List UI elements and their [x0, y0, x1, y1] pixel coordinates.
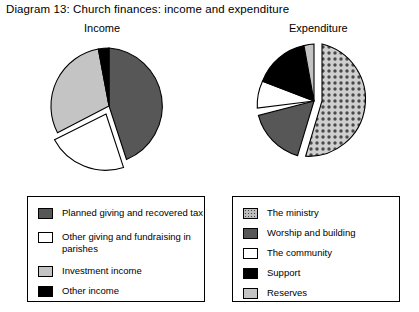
legend-swatch-dark-grey-icon — [38, 208, 53, 219]
diagram-title: Diagram 13: Church finances: income and … — [6, 3, 289, 15]
legend-swatch-dotted-icon — [243, 208, 258, 219]
expenditure-legend-item-the-community: The community — [243, 247, 332, 259]
legend-swatch-white-icon — [38, 232, 53, 243]
expenditure-legend-item-worship-and-building: Worship and building — [243, 227, 356, 239]
expenditure-chart-title: Expenditure — [289, 22, 348, 34]
expenditure-legend-label-1: Worship and building — [267, 227, 356, 239]
expenditure-legend-label-0: The ministry — [267, 207, 319, 219]
income-legend-item-investment-income: Investment income — [38, 265, 142, 277]
expenditure-slice-the-ministry — [306, 44, 366, 156]
expenditure-legend-label-3: Support — [267, 267, 300, 279]
expenditure-pie-chart — [236, 38, 391, 173]
expenditure-slice-worship-and-building — [258, 101, 314, 156]
income-slice-planned-giving — [109, 48, 162, 159]
expenditure-legend-label-4: Reserves — [267, 287, 307, 299]
expenditure-legend-item-reserves: Reserves — [243, 287, 307, 299]
expenditure-legend-item-the-ministry: The ministry — [243, 207, 319, 219]
income-pie-svg — [34, 38, 184, 173]
legend-swatch-dark-grey-icon — [243, 228, 258, 239]
income-chart-title: Income — [84, 22, 120, 34]
income-pie-chart — [34, 38, 184, 173]
diagram-page: Diagram 13: Church finances: income and … — [0, 0, 419, 312]
income-legend-label-1: Other giving and fundraising in parishes — [62, 231, 191, 254]
legend-swatch-black-icon — [243, 268, 258, 279]
expenditure-legend-item-support: Support — [243, 267, 300, 279]
expenditure-legend-label-2: The community — [267, 247, 332, 259]
legend-swatch-black-icon — [38, 286, 53, 297]
income-legend-label-2: Investment income — [62, 265, 142, 277]
income-legend-label-3: Other income — [62, 285, 119, 297]
expenditure-pie-svg — [236, 38, 391, 173]
income-legend-item-other-giving: Other giving and fundraising in parishes — [38, 231, 191, 254]
legend-swatch-light-grey-icon — [243, 288, 258, 299]
income-legend: Planned giving and recovered tax Other g… — [27, 196, 205, 302]
legend-swatch-light-grey-icon — [38, 266, 53, 277]
income-legend-label-0: Planned giving and recovered tax — [62, 207, 203, 219]
income-legend-item-planned-giving: Planned giving and recovered tax — [38, 207, 203, 219]
legend-swatch-white-icon — [243, 248, 258, 259]
income-legend-item-other-income: Other income — [38, 285, 119, 297]
expenditure-legend: The ministry Worship and building The co… — [232, 196, 400, 302]
